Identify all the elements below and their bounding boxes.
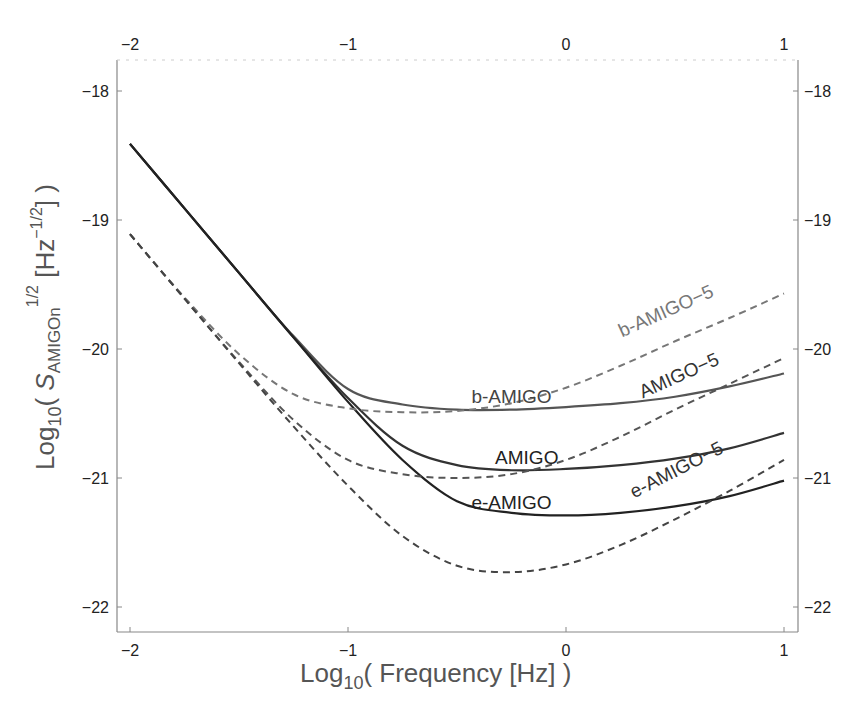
y-axis-left: −18−19−20−21−22 (82, 83, 122, 616)
x-tick-label: −1 (339, 642, 357, 659)
y-tick-label: −19 (82, 212, 109, 229)
curve-label: AMIGO−5 (636, 348, 722, 402)
y-axis-right: −18−19−20−21−22 (793, 83, 831, 616)
curve-label: AMIGO (495, 447, 558, 468)
curve-labels: b-AMIGOAMIGOe-AMIGOb-AMIGO−5AMIGO−5e-AMI… (471, 280, 726, 512)
curve-label: e-AMIGO (471, 492, 551, 513)
y-tick-label: −22 (82, 599, 109, 616)
x-tick-label: 0 (562, 642, 571, 659)
x-tick-label: 1 (780, 642, 789, 659)
y-right-tick-label: −22 (804, 599, 831, 616)
curve-label: e-AMIGO−5 (626, 437, 726, 502)
y-tick-label: −21 (82, 470, 109, 487)
curve-label: b-AMIGO (471, 386, 551, 407)
y-right-tick-label: −19 (804, 212, 831, 229)
y-tick-label: −20 (82, 341, 109, 358)
y-tick-label: −18 (82, 83, 109, 100)
x-top-tick-label: −2 (121, 36, 139, 53)
x-top-tick-label: 0 (562, 36, 571, 53)
x-top-tick-label: −1 (339, 36, 357, 53)
x-axis-top: −2−101 (121, 36, 789, 53)
curve-amigo-5 (130, 234, 784, 478)
curve-e-amigo-5 (130, 234, 784, 572)
y-right-tick-label: −21 (804, 470, 831, 487)
y-axis-title: Log10( SAMIGOn1/2 [Hz−1/2] ) (24, 184, 65, 470)
psd-chart: −2−101 −2−101 −18−19−20−21−22 −18−19−20−… (0, 0, 864, 724)
y-right-tick-label: −20 (804, 341, 831, 358)
curve-label: b-AMIGO−5 (615, 280, 717, 341)
x-axis-title: Log10( Frequency [Hz] ) (300, 658, 571, 693)
x-tick-label: −2 (121, 642, 139, 659)
plot-frame (117, 60, 798, 632)
y-right-tick-label: −18 (804, 83, 831, 100)
x-top-tick-label: 1 (780, 36, 789, 53)
curves (130, 144, 784, 572)
